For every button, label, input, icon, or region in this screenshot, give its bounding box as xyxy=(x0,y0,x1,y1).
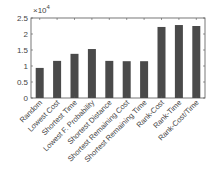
bar xyxy=(36,68,44,98)
bar xyxy=(175,25,183,98)
y-tick-label: 2 xyxy=(24,30,29,39)
y-tick-label: 0 xyxy=(24,94,29,103)
y-tick-label: 2.5 xyxy=(17,14,29,23)
bar xyxy=(88,49,96,98)
bar xyxy=(140,61,148,98)
y-tick-label: 1.5 xyxy=(17,46,29,55)
x-axis-labels: RandomLowest CostShortest TimeLowest F. … xyxy=(18,97,201,164)
bar xyxy=(123,61,131,98)
bar xyxy=(53,61,61,98)
y-axis-multiplier: ×104 xyxy=(33,4,51,15)
bar xyxy=(158,27,166,98)
bars-group xyxy=(36,18,201,98)
bar xyxy=(71,54,79,98)
bar xyxy=(192,26,200,98)
y-tick-label: 0.5 xyxy=(17,78,29,87)
bar xyxy=(105,61,113,98)
bar-chart: 00.511.522.5 RandomLowest CostShortest T… xyxy=(0,0,214,187)
y-tick-label: 1 xyxy=(24,62,29,71)
